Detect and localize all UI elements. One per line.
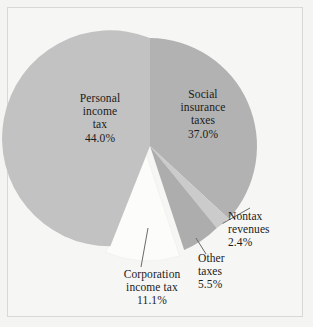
slice-label-social-insurance-taxes: Social insurance taxes 37.0% [156,88,250,141]
slice-label-line-2: income tax [90,281,214,294]
slice-label-line-1: Social [156,88,250,101]
slice-label-line-2: insurance [156,101,250,114]
slice-value-personal-income-tax: 44.0% [54,132,146,145]
slice-label-line-1: Other [198,252,268,265]
slice-value-nontax-revenues: 2.4% [228,236,308,249]
pie-chart-figure: Personal income tax 44.0% Social insuran… [0,0,313,327]
slice-value-social-insurance-taxes: 37.0% [156,128,250,141]
slice-label-line-2: income [54,105,146,118]
slice-value-corporation-income-tax: 11.1% [90,294,214,307]
slice-label-line-3: tax [54,118,146,131]
slice-label-line-1: Corporation [90,268,214,281]
slice-label-personal-income-tax: Personal income tax 44.0% [54,92,146,145]
slice-label-line-1: Personal [54,92,146,105]
slice-label-line-2: revenues [228,223,308,236]
slice-label-corporation-income-tax: Corporation income tax 11.1% [90,268,214,308]
slice-label-line-1: Nontax [228,210,308,223]
slice-label-nontax-revenues: Nontax revenues 2.4% [228,210,308,250]
slice-label-line-3: taxes [156,114,250,127]
